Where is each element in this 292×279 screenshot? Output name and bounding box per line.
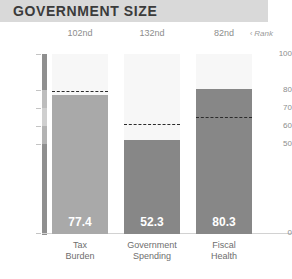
y-tick-mark-60 — [36, 126, 41, 127]
y-tick-mark-100 — [36, 54, 41, 55]
y-axis-segment-60-50 — [42, 126, 47, 144]
x-axis-label-fiscal-health: Fiscal Health — [196, 240, 252, 261]
bar-government-spending[interactable]: 52.3 — [124, 140, 180, 234]
benchmark-line-fiscal-health — [196, 117, 252, 118]
y-tick-label-70: 70 — [258, 103, 292, 112]
y-tick-label-100: 100 — [258, 49, 292, 58]
bar-chart-plot: 100 80 70 60 50 0 77.4 52.3 80.3 Tax Bur… — [0, 0, 292, 279]
y-tick-mark-50 — [36, 144, 41, 145]
y-axis-segment-80-70 — [42, 90, 47, 108]
bar-fiscal-health[interactable]: 80.3 — [196, 89, 252, 234]
benchmark-line-tax-burden — [52, 91, 108, 92]
y-tick-label-0: 0 — [258, 228, 292, 237]
bar-value-tax-burden: 77.4 — [52, 215, 108, 229]
y-tick-label-60: 60 — [258, 121, 292, 130]
y-tick-label-50: 50 — [258, 139, 292, 148]
x-axis-label-government-spending: Government Spending — [116, 240, 188, 261]
y-axis-segment-lower — [42, 144, 47, 235]
bar-value-fiscal-health: 80.3 — [196, 215, 252, 229]
chart-page: GOVERNMENT SIZE 102nd 132nd 82nd ‹Rank 1… — [0, 0, 292, 279]
y-tick-mark-70 — [36, 108, 41, 109]
benchmark-line-government-spending — [124, 124, 180, 125]
x-axis-label-tax-burden: Tax Burden — [52, 240, 108, 261]
y-tick-mark-80 — [36, 90, 41, 91]
y-tick-mark-0 — [36, 233, 41, 234]
bar-tax-burden[interactable]: 77.4 — [52, 95, 108, 234]
y-axis-segment-70-60 — [42, 108, 47, 126]
bar-value-government-spending: 52.3 — [124, 215, 180, 229]
y-axis-segment-upper — [42, 54, 47, 90]
y-tick-label-80: 80 — [258, 85, 292, 94]
